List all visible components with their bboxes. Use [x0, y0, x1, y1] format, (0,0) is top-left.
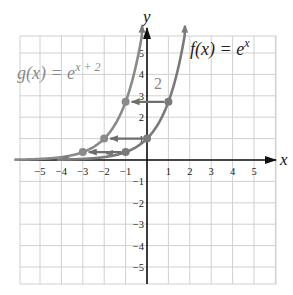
x-tick-label: −2 [99, 166, 110, 177]
y-tick-label: −5 [133, 262, 144, 273]
label-f: f(x) = ex [190, 36, 250, 60]
x-tick-label: −5 [34, 166, 45, 177]
label-g: g(x) = ex + 2 [17, 60, 101, 84]
x-tick-label: 4 [230, 166, 236, 177]
y-tick-label: 2 [139, 112, 144, 123]
y-tick-label: 3 [139, 91, 144, 102]
point-g [79, 148, 87, 156]
y-tick-label: −2 [133, 198, 144, 209]
point-f [164, 98, 172, 106]
x-tick-label: −4 [56, 166, 68, 177]
x-tick-label: 1 [166, 166, 171, 177]
x-tick-label: 3 [209, 166, 214, 177]
y-tick-label: −3 [133, 219, 144, 230]
y-tick-label: 4 [139, 69, 145, 80]
x-tick-label: −3 [77, 166, 88, 177]
shift-annotation: 2 [154, 75, 162, 92]
y-tick-label: −4 [133, 241, 145, 252]
label-g-exponent: x + 2 [74, 60, 100, 74]
point-g [100, 135, 108, 143]
x-tick-label: 5 [251, 166, 256, 177]
x-axis-label: x [279, 150, 288, 169]
label-f-exponent: x [243, 36, 250, 50]
x-tick-label: −1 [120, 166, 131, 177]
y-axis-label: y [141, 7, 151, 26]
point-f [122, 148, 130, 156]
chart: xy−5−4−3−2−112345−5−4−3−2−1123452f(x) = … [0, 0, 293, 295]
point-f [143, 135, 151, 143]
point-g [122, 98, 130, 106]
x-tick-label: 2 [187, 166, 192, 177]
y-tick-label: −1 [133, 176, 144, 187]
